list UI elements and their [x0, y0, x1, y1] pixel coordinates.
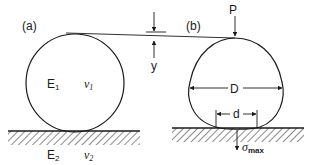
plane-hatch-a: [8, 131, 140, 145]
undeformed-sphere: [26, 34, 124, 132]
max-stress-label: σmax: [242, 140, 264, 155]
panel-b-label: (b): [186, 19, 201, 33]
deflection-label: y: [151, 59, 157, 73]
panel-a-label: (a): [22, 19, 37, 33]
plane-modulus-label: E2: [47, 148, 60, 163]
panel-a: (a) E1 ν1 E2 ν2: [8, 19, 140, 163]
contact-diameter-label: d: [233, 107, 240, 121]
load-label: P: [229, 3, 237, 17]
sphere-modulus-label: E1: [47, 77, 60, 92]
sphere-poisson-label: ν1: [84, 77, 93, 92]
plane-poisson-label: ν2: [84, 148, 93, 163]
contact-diagram: (a) E1 ν1 E2 ν2 y (b) P D d σmax: [0, 0, 309, 165]
deflection-dimension: y: [66, 12, 235, 73]
diameter-label: D: [230, 82, 239, 96]
plane-hatch-b: [172, 128, 304, 142]
panel-b: (b) P D d σmax: [172, 3, 304, 155]
